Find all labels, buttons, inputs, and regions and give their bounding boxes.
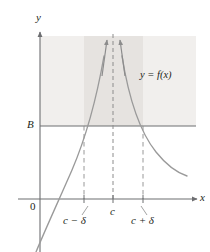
right-bound-label: c + δ: [131, 215, 154, 226]
threshold-label-b: B: [27, 119, 34, 130]
left-bound-label: c − δ: [63, 215, 86, 226]
function-curve-label: y = f(x): [140, 70, 172, 81]
x-axis-label: x: [200, 192, 205, 203]
figure-container: y x B 0 c c − δ c + δ y = f(x): [0, 0, 210, 252]
center-label-c: c: [110, 206, 115, 217]
y-axis-label: y: [36, 12, 41, 23]
origin-label: 0: [30, 201, 36, 212]
